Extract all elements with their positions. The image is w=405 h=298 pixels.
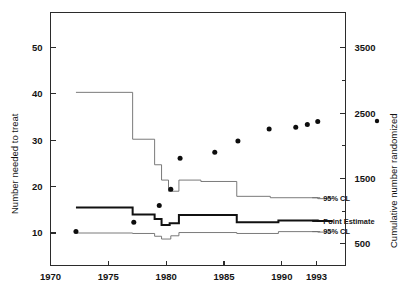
y-axis-left-tick-label: 40 <box>32 88 43 99</box>
scatter-point <box>305 122 310 127</box>
x-axis-tick-label: 1970 <box>40 271 61 282</box>
y-axis-left-title: Number needed to treat <box>9 113 20 214</box>
chart-canvas: 1020304050 500150025003500 1970197519801… <box>0 0 405 298</box>
scatter-point <box>267 127 272 132</box>
x-axis-tick-label: 1975 <box>98 271 120 282</box>
y-axis-right-tick-label: 500 <box>355 238 371 249</box>
scatter-point <box>131 220 136 225</box>
scatter-point <box>235 139 240 144</box>
y-axis-left-tick-label: 30 <box>32 135 43 146</box>
chart-background <box>0 0 405 298</box>
y-axis-right-tick-label: 2500 <box>355 108 376 119</box>
scatter-point <box>293 125 298 130</box>
scatter-point <box>157 203 162 208</box>
series-label-point-estimate: Point Estimate <box>323 217 374 226</box>
scatter-point <box>315 119 320 124</box>
y-axis-right-title: Cumulative number randomized <box>388 113 399 248</box>
y-axis-left-tick-label: 20 <box>32 181 43 192</box>
y-axis-right-tick-label: 3500 <box>355 42 376 53</box>
scatter-point <box>168 187 173 192</box>
y-axis-right-tick-label: 1500 <box>355 173 376 184</box>
chart-figure: 1020304050 500150025003500 1970197519801… <box>0 0 405 298</box>
scatter-point <box>212 150 217 155</box>
series-label-upper-confidence-limit: 95% CL <box>323 194 350 203</box>
x-axis-tick-label: 1990 <box>271 271 292 282</box>
scatter-point <box>73 229 78 234</box>
x-axis-tick-label: 1980 <box>156 271 177 282</box>
scatter-legend-marker <box>375 119 379 123</box>
x-axis-tick-label: 1985 <box>213 271 235 282</box>
scatter-point <box>178 156 183 161</box>
y-axis-left-tick-label: 10 <box>32 227 43 238</box>
y-axis-left-tick-label: 50 <box>32 42 43 53</box>
x-axis-tick-label: 1993 <box>306 271 327 282</box>
series-label-lower-confidence-limit: 95% CL <box>323 227 350 236</box>
